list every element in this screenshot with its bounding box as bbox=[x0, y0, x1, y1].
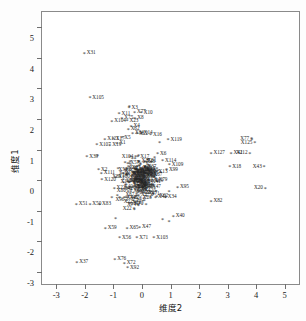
point-label: X27 bbox=[141, 158, 150, 163]
x-axis-tick-label: 3 bbox=[225, 290, 229, 300]
x-axis-tick bbox=[285, 284, 286, 289]
point-marker: * bbox=[75, 262, 78, 265]
point-marker: * bbox=[85, 156, 88, 159]
point-label: X16 bbox=[153, 132, 162, 137]
point-label: X56 bbox=[122, 235, 131, 240]
point-label: X80 bbox=[117, 188, 126, 193]
point-marker: * bbox=[118, 237, 121, 240]
point-marker: * bbox=[108, 145, 111, 148]
y-axis-title: 维度1 bbox=[8, 149, 20, 172]
point-label: X83 bbox=[102, 201, 111, 206]
point-label: X37 bbox=[79, 259, 88, 264]
point-marker: * bbox=[126, 228, 129, 231]
point-label: X69 bbox=[154, 178, 163, 183]
x-axis-tick bbox=[142, 284, 143, 289]
x-axis-tick bbox=[199, 284, 200, 289]
point-label: X22 bbox=[123, 206, 132, 211]
point-marker: * bbox=[126, 267, 129, 270]
point-marker: * bbox=[100, 173, 103, 176]
point-marker: * bbox=[98, 204, 101, 207]
x-axis-tick-label: -2 bbox=[81, 290, 88, 300]
point-marker: * bbox=[138, 227, 141, 230]
point-marker: * bbox=[137, 190, 140, 193]
y-axis-tick bbox=[37, 241, 42, 242]
y-axis-tick bbox=[37, 58, 42, 59]
point-marker: * bbox=[135, 133, 138, 136]
point-label: X1 bbox=[119, 140, 125, 145]
x-axis-title: 维度2 bbox=[41, 301, 300, 313]
point-marker: * bbox=[149, 134, 152, 137]
point-label: X120 bbox=[104, 177, 116, 182]
point-marker: * bbox=[100, 179, 103, 182]
point-marker: * bbox=[145, 204, 148, 207]
point-marker: * bbox=[96, 155, 99, 158]
x-axis-tick-label: -1 bbox=[110, 290, 117, 300]
point-marker: * bbox=[113, 188, 116, 191]
point-marker: * bbox=[167, 221, 170, 224]
y-axis-tick-label: -1 bbox=[27, 217, 34, 227]
point-marker: * bbox=[152, 237, 155, 240]
point-marker: * bbox=[123, 197, 126, 200]
point-marker: * bbox=[248, 153, 251, 156]
y-axis-tick-label: 2 bbox=[30, 125, 34, 135]
y-axis-tick bbox=[37, 272, 42, 273]
point-label: X20 bbox=[254, 185, 263, 190]
point-label: X44 bbox=[127, 195, 136, 200]
point-label: X47 bbox=[142, 224, 151, 229]
x-axis-tick-label: 2 bbox=[197, 290, 201, 300]
point-marker: * bbox=[132, 172, 135, 175]
point-marker: * bbox=[161, 219, 164, 222]
point-label: X92 bbox=[130, 265, 139, 270]
point-label: X59 bbox=[108, 225, 117, 230]
point-marker: * bbox=[133, 112, 136, 115]
point-marker: * bbox=[167, 139, 170, 142]
x-axis-tick bbox=[113, 284, 114, 289]
point-marker: * bbox=[137, 161, 140, 164]
point-marker: * bbox=[144, 193, 147, 196]
point-marker: * bbox=[88, 204, 91, 207]
point-marker: * bbox=[209, 153, 212, 156]
point-marker: * bbox=[229, 153, 232, 156]
point-marker: * bbox=[176, 187, 179, 190]
y-axis-tick-label: 5 bbox=[30, 33, 34, 43]
point-label: X34 bbox=[168, 194, 177, 199]
point-marker: * bbox=[145, 173, 148, 176]
x-axis-tick bbox=[56, 284, 57, 289]
y-axis-tick bbox=[37, 211, 42, 212]
x-axis-tick-label: 0 bbox=[140, 290, 144, 300]
x-axis-tick bbox=[171, 284, 172, 289]
y-axis-tick bbox=[37, 88, 42, 89]
point-label: X18 bbox=[232, 164, 241, 169]
point-label: X103 bbox=[156, 235, 168, 240]
point-marker: * bbox=[156, 153, 159, 156]
point-marker: * bbox=[83, 53, 86, 56]
point-label: X82 bbox=[213, 198, 222, 203]
point-label: X43 bbox=[253, 164, 262, 169]
point-marker: * bbox=[88, 97, 91, 100]
point-marker: * bbox=[132, 187, 135, 190]
point-label: X127 bbox=[213, 150, 225, 155]
point-marker: * bbox=[140, 133, 143, 136]
y-axis-tick bbox=[37, 119, 42, 120]
y-axis-tick bbox=[37, 180, 42, 181]
point-label: X31 bbox=[87, 50, 96, 55]
point-label: X71 bbox=[139, 235, 148, 240]
point-marker: * bbox=[161, 160, 164, 163]
y-axis-tick bbox=[37, 27, 42, 28]
point-marker: * bbox=[137, 170, 140, 173]
point-label: X51 bbox=[79, 201, 88, 206]
point-marker: * bbox=[113, 259, 116, 262]
point-marker: * bbox=[142, 189, 145, 192]
y-axis-tick-label: -2 bbox=[27, 247, 34, 257]
point-label: X105 bbox=[92, 95, 104, 100]
x-axis-tick bbox=[256, 284, 257, 289]
x-axis-tick-label: 1 bbox=[168, 290, 172, 300]
point-label: X104 bbox=[114, 118, 126, 123]
point-marker: * bbox=[110, 197, 113, 200]
plot-area: 543210-1-2-3-3-2-1012345****************… bbox=[42, 12, 299, 284]
point-label: X6 bbox=[160, 151, 166, 156]
point-marker: * bbox=[126, 163, 129, 166]
point-marker: * bbox=[132, 208, 135, 211]
point-label: X99 bbox=[169, 167, 178, 172]
y-axis-tick bbox=[37, 150, 42, 151]
